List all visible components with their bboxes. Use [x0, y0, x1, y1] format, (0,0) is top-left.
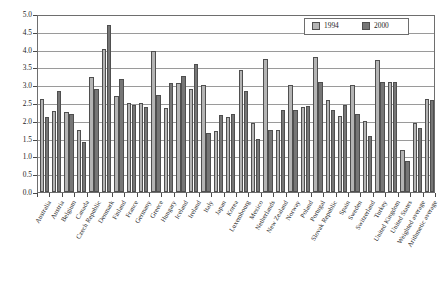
bar-1994	[102, 49, 106, 192]
legend-item-2000[interactable]: 2000	[362, 22, 389, 30]
bar-1994	[214, 131, 218, 192]
bar-group	[324, 16, 336, 192]
x-tick-mark	[248, 193, 249, 197]
bar-1994	[40, 99, 44, 192]
bar-group	[63, 16, 75, 192]
bar-2000	[69, 114, 73, 192]
y-tick-label: 3.0	[8, 82, 32, 89]
bar-1994	[388, 82, 392, 192]
y-tick-label: 2.5	[8, 100, 32, 107]
x-tick-label: Australia	[34, 199, 53, 224]
bar-2000	[281, 110, 285, 192]
x-tick-mark	[261, 193, 262, 197]
x-tick-mark	[435, 193, 436, 197]
bar-group	[113, 16, 125, 192]
x-tick-mark	[286, 193, 287, 197]
bar-2000	[194, 64, 198, 192]
bar-group	[312, 16, 324, 192]
plot-area	[37, 15, 435, 193]
bar-1994	[77, 130, 81, 192]
bar-1994	[375, 60, 379, 192]
x-tick-mark	[124, 193, 125, 197]
x-tick-mark	[199, 193, 200, 197]
legend-swatch-1994	[312, 22, 320, 30]
x-tick-mark	[112, 193, 113, 197]
bar-group	[262, 16, 274, 192]
bar-1994	[276, 130, 280, 192]
bar-1994	[288, 85, 292, 193]
bar-2000	[231, 114, 235, 192]
x-tick-mark	[360, 193, 361, 197]
x-tick-mark	[410, 193, 411, 197]
legend: 1994 2000	[304, 18, 409, 35]
bar-1994	[363, 121, 367, 192]
x-tick-mark	[49, 193, 50, 197]
x-tick-mark	[398, 193, 399, 197]
x-tick-mark	[298, 193, 299, 197]
bar-group	[125, 16, 137, 192]
y-tick-label: 2.0	[8, 118, 32, 125]
x-tick-mark	[174, 193, 175, 197]
bar-group	[38, 16, 50, 192]
bar-2000	[144, 107, 148, 192]
bar-1994	[338, 116, 342, 192]
bar-group	[75, 16, 87, 192]
bar-1994	[127, 103, 131, 192]
bar-1994	[313, 57, 317, 192]
bar-1994	[326, 100, 330, 192]
bar-1994	[201, 85, 205, 193]
bar-group	[162, 16, 174, 192]
bar-1994	[114, 96, 118, 192]
bar-1994	[400, 150, 404, 192]
bar-2000	[331, 110, 335, 192]
bar-group	[175, 16, 187, 192]
bar-1994	[52, 111, 56, 192]
legend-label-1994: 1994	[324, 22, 339, 29]
y-tick-label: 1.5	[8, 136, 32, 143]
x-tick-mark	[74, 193, 75, 197]
bar-2000	[82, 142, 86, 192]
bar-2000	[244, 91, 248, 192]
bar-group	[374, 16, 386, 192]
bar-group	[361, 16, 373, 192]
legend-swatch-2000	[362, 22, 370, 30]
bar-1994	[350, 85, 354, 193]
bar-group	[200, 16, 212, 192]
bar-2000	[318, 82, 322, 192]
y-tick-label: 5.0	[8, 11, 32, 18]
x-tick-label: Italy	[202, 199, 214, 213]
x-tick-mark	[348, 193, 349, 197]
x-tick-mark	[149, 193, 150, 197]
bar-group	[225, 16, 237, 192]
bar-group	[100, 16, 112, 192]
x-tick-mark	[423, 193, 424, 197]
bar-2000	[268, 130, 272, 192]
bar-2000	[368, 136, 372, 192]
bar-1994	[151, 51, 155, 192]
x-tick-mark	[236, 193, 237, 197]
bar-2000	[430, 100, 434, 192]
bar-1994	[263, 59, 267, 192]
bar-1994	[413, 123, 417, 192]
bar-group	[424, 16, 436, 192]
bar-1994	[89, 77, 93, 192]
legend-item-1994[interactable]: 1994	[312, 22, 339, 30]
x-tick-mark	[211, 193, 212, 197]
bar-group	[399, 16, 411, 192]
x-tick-mark	[37, 193, 38, 197]
y-tick-label: 0.5	[8, 171, 32, 178]
bar-2000	[169, 83, 173, 192]
bar-2000	[45, 117, 49, 192]
bar-group	[411, 16, 423, 192]
x-tick-mark	[224, 193, 225, 197]
bar-group	[249, 16, 261, 192]
bar-group	[138, 16, 150, 192]
y-tick-label: 4.0	[8, 47, 32, 54]
x-tick-mark	[273, 193, 274, 197]
x-tick-mark	[137, 193, 138, 197]
bars-layer	[38, 16, 434, 192]
bar-1994	[189, 89, 193, 192]
bar-2000	[256, 139, 260, 192]
y-tick-label: 3.5	[8, 64, 32, 71]
bar-2000	[156, 95, 160, 192]
